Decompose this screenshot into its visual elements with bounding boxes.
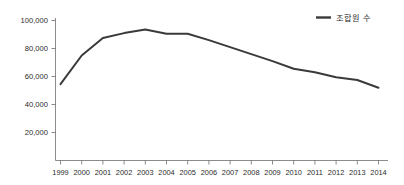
x-tick-label-1999: 1999 <box>52 168 68 177</box>
y-tick-label-20000: 20,000 <box>25 128 48 137</box>
x-tick-label-2012: 2012 <box>328 168 344 177</box>
legend: 조합원 수 <box>316 13 371 23</box>
y-tick-marks <box>52 21 56 133</box>
x-tick-marks <box>61 161 379 165</box>
x-tick-label-2001: 2001 <box>95 168 111 177</box>
y-tick-label-40000: 40,000 <box>25 100 48 109</box>
x-tick-label-2000: 2000 <box>73 168 89 177</box>
y-tick-label-80000: 80,000 <box>25 44 48 53</box>
y-tick-label-100000: 100,000 <box>21 16 48 25</box>
x-tick-label-2008: 2008 <box>243 168 259 177</box>
legend-label-combined-members: 조합원 수 <box>336 13 371 23</box>
x-tick-label-2005: 2005 <box>179 168 195 177</box>
x-tick-label-2003: 2003 <box>137 168 153 177</box>
series-line-combined-members <box>61 30 379 88</box>
x-tick-label-2013: 2013 <box>349 168 365 177</box>
chart-canvas: 100,000 80,000 60,000 40,000 20,000 1999… <box>0 0 404 185</box>
x-tick-label-2011: 2011 <box>307 168 323 177</box>
x-tick-label-2009: 2009 <box>264 168 280 177</box>
x-tick-label-2006: 2006 <box>201 168 217 177</box>
x-tick-label-2010: 2010 <box>285 168 301 177</box>
y-tick-label-60000: 60,000 <box>25 72 48 81</box>
x-tick-label-2014: 2014 <box>370 168 386 177</box>
x-tick-label-2007: 2007 <box>222 168 238 177</box>
x-tick-label-2002: 2002 <box>116 168 132 177</box>
line-chart: 100,000 80,000 60,000 40,000 20,000 1999… <box>0 0 404 185</box>
x-tick-label-2004: 2004 <box>158 168 174 177</box>
